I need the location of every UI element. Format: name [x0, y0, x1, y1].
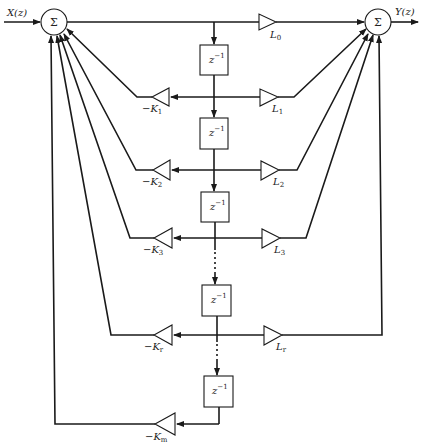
- filter-diagram: Σ Σ X(z) Y(z) z−1 z−1 z−1 z−1 z−1 L0 −K1…: [0, 0, 428, 446]
- label-Km: −Km: [145, 431, 168, 444]
- output-label: Y(z): [395, 6, 415, 17]
- label-K1: −K1: [142, 103, 162, 116]
- label-L1: L1: [271, 103, 283, 116]
- left-summer-symbol: Σ: [50, 16, 58, 29]
- feedback-path-Km: [51, 36, 155, 424]
- label-L3: L3: [273, 244, 285, 257]
- delay-box-m: [204, 376, 233, 407]
- input-label: X(z): [6, 7, 27, 18]
- label-L2: L2: [272, 176, 284, 189]
- forward-path-L2: [279, 34, 368, 170]
- label-K2: −K2: [142, 176, 162, 189]
- gain-triangle-L0: [259, 14, 276, 30]
- right-summer-symbol: Σ: [374, 16, 382, 29]
- label-Lr: Lr: [275, 341, 287, 354]
- delay-box-r: [202, 285, 231, 316]
- feedback-path-Kr: [57, 36, 154, 335]
- delay-labels: z−1 z−1 z−1 z−1 z−1: [208, 52, 228, 396]
- label-K3: −K3: [143, 244, 163, 257]
- label-L0: L0: [269, 29, 281, 42]
- label-Kr: −Kr: [144, 341, 164, 354]
- feedback-path-K3: [60, 35, 154, 238]
- forward-path-Lr: [282, 36, 382, 335]
